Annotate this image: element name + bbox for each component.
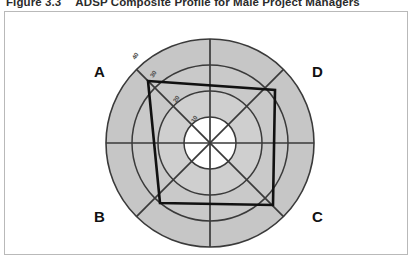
radar-chart-svg (5, 12, 409, 256)
figure-caption: Figure 3.3ADSP Composite Profile for Mal… (6, 0, 406, 10)
figure-title: ADSP Composite Profile for Male Project … (75, 0, 360, 8)
quadrant-label-a: A (94, 64, 105, 79)
quadrant-label-c: C (312, 209, 323, 224)
quadrant-label-b: B (94, 209, 105, 224)
radar-chart: 40 30 20 10 A D B C (5, 12, 409, 256)
figure-root: Figure 3.3ADSP Composite Profile for Mal… (0, 0, 414, 266)
quadrant-label-d: D (312, 64, 323, 79)
figure-number: Figure 3.3 (6, 0, 61, 8)
figure-panel: 40 30 20 10 A D B C (4, 11, 408, 255)
